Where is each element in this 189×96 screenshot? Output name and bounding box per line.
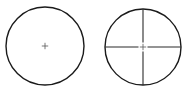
reticle-diagram-svg xyxy=(0,0,189,96)
figure-duplex-crosshair-reticle xyxy=(105,9,181,85)
figure-plain-dot-reticle xyxy=(6,7,84,85)
reticle-diagram-canvas xyxy=(0,0,189,96)
center-crosshair-mark-icon xyxy=(140,44,146,50)
center-crosshair-mark-icon xyxy=(42,43,48,49)
